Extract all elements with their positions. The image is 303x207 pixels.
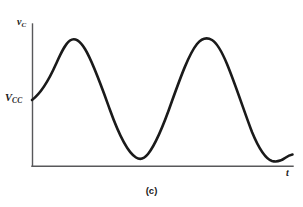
y-axis-label-subscript: C [21,21,26,29]
vcc-label-subscript: CC [12,96,22,105]
vcc-label-main: V [5,92,12,103]
figure-container: vC VCC t (c) [0,0,303,207]
capacitor-voltage-curve [32,38,293,161]
figure-caption: (c) [0,186,303,196]
x-axis-label: t [286,168,289,178]
y-axis-label: vC [17,17,26,27]
waveform-plot [0,0,303,207]
vcc-tick-label: VCC [5,93,22,104]
